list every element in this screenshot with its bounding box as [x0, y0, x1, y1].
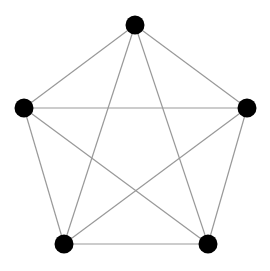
edge-top-bottom-right — [135, 25, 208, 244]
node-right — [238, 99, 257, 118]
graph-svg — [0, 0, 270, 271]
edge-right-bottom-left — [64, 108, 247, 244]
node-top — [126, 16, 145, 35]
node-bottom-right — [199, 235, 218, 254]
edge-top-right — [135, 25, 247, 108]
node-bottom-left — [55, 235, 74, 254]
edge-left-bottom-right — [24, 108, 208, 244]
edge-group — [24, 25, 247, 244]
node-left — [15, 99, 34, 118]
edge-top-left — [24, 25, 135, 108]
edge-left-bottom-left — [24, 108, 64, 244]
node-group — [15, 16, 257, 254]
graph-diagram — [0, 0, 270, 271]
edge-top-bottom-left — [64, 25, 135, 244]
edge-right-bottom-right — [208, 108, 247, 244]
